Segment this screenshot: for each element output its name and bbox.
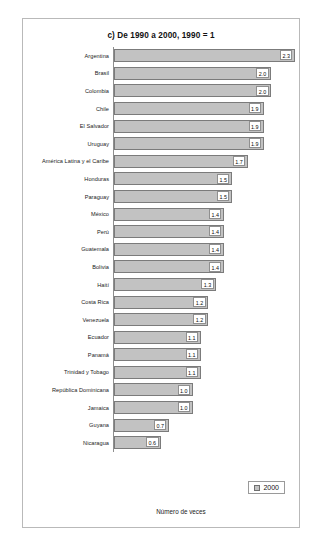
bar-value-label: 1.0 bbox=[178, 385, 190, 395]
bar-track: 1.2 bbox=[113, 293, 299, 311]
bar-track: 0.6 bbox=[113, 434, 299, 452]
bar bbox=[114, 243, 224, 256]
category-label: Bolivia bbox=[23, 264, 113, 270]
bar-row: Haití1.3 bbox=[23, 276, 299, 294]
category-label: Trinidad y Tobago bbox=[23, 369, 113, 375]
bar-row: Perú1.4 bbox=[23, 223, 299, 241]
bar-value-label: 1.9 bbox=[249, 103, 261, 113]
category-label: Panamá bbox=[23, 352, 113, 358]
bar-value-label: 1.1 bbox=[186, 367, 198, 377]
chart-title: c) De 1990 a 2000, 1990 = 1 bbox=[23, 31, 299, 40]
category-label: Colombia bbox=[23, 88, 113, 94]
bar-value-label: 1.7 bbox=[233, 156, 245, 166]
category-label: Ecuador bbox=[23, 334, 113, 340]
bar-value-label: 1.1 bbox=[186, 332, 198, 342]
bar-row: El Salvador1.9 bbox=[23, 117, 299, 135]
bar-value-label: 2.3 bbox=[280, 50, 292, 60]
x-axis-label: Número de veces bbox=[23, 508, 299, 515]
bar bbox=[114, 190, 232, 203]
bar-track: 2.3 bbox=[113, 47, 299, 65]
bar-track: 1.1 bbox=[113, 364, 299, 382]
bar-row: América Latina y el Caribe1.7 bbox=[23, 153, 299, 171]
bar-value-label: 0.7 bbox=[154, 420, 166, 430]
bar bbox=[114, 260, 224, 273]
bar-row: Brasil2.0 bbox=[23, 65, 299, 83]
bar-track: 1.4 bbox=[113, 223, 299, 241]
bar-value-label: 1.2 bbox=[193, 314, 205, 324]
category-label: Costa Rica bbox=[23, 299, 113, 305]
bar-row: Ecuador1.1 bbox=[23, 329, 299, 347]
bar-row: Costa Rica1.2 bbox=[23, 293, 299, 311]
bar-track: 1.2 bbox=[113, 311, 299, 329]
bar-track: 1.0 bbox=[113, 399, 299, 417]
bar-row: Chile1.9 bbox=[23, 100, 299, 118]
bar-row: Uruguay1.9 bbox=[23, 135, 299, 153]
bar-row: Bolivia1.4 bbox=[23, 258, 299, 276]
legend-swatch-2000 bbox=[254, 485, 260, 491]
bar-track: 0.7 bbox=[113, 416, 299, 434]
bar-value-label: 2.0 bbox=[256, 86, 268, 96]
category-label: Argentina bbox=[23, 53, 113, 59]
category-label: Perú bbox=[23, 229, 113, 235]
bar-row: Colombia2.0 bbox=[23, 82, 299, 100]
bar-value-label: 0.6 bbox=[146, 437, 158, 447]
category-label: América Latina y el Caribe bbox=[23, 158, 113, 164]
bar-value-label: 1.4 bbox=[209, 244, 221, 254]
bar-row: Guatemala1.4 bbox=[23, 241, 299, 259]
bar-value-label: 1.4 bbox=[209, 262, 221, 272]
bar-track: 1.0 bbox=[113, 381, 299, 399]
bar-row: Trinidad y Tobago1.1 bbox=[23, 364, 299, 382]
category-label: Uruguay bbox=[23, 141, 113, 147]
bar-track: 1.4 bbox=[113, 241, 299, 259]
bar bbox=[114, 208, 224, 221]
bar-row: Venezuela1.2 bbox=[23, 311, 299, 329]
category-label: México bbox=[23, 211, 113, 217]
bar-track: 1.7 bbox=[113, 153, 299, 171]
bar-row: Guyana0.7 bbox=[23, 416, 299, 434]
bar-track: 1.5 bbox=[113, 170, 299, 188]
chart-legend: 2000 bbox=[248, 481, 285, 494]
category-label: Guatemala bbox=[23, 246, 113, 252]
bar bbox=[114, 225, 224, 238]
bar-track: 1.3 bbox=[113, 276, 299, 294]
bar-value-label: 1.4 bbox=[209, 209, 221, 219]
bar-track: 1.1 bbox=[113, 329, 299, 347]
bar-value-label: 1.5 bbox=[217, 174, 229, 184]
bar bbox=[114, 155, 248, 168]
bar-row: Panamá1.1 bbox=[23, 346, 299, 364]
category-label: Brasil bbox=[23, 70, 113, 76]
plot-area: Argentina2.3Brasil2.0Colombia2.0Chile1.9… bbox=[23, 47, 299, 477]
category-label: República Dominicana bbox=[23, 387, 113, 393]
bar-value-label: 1.3 bbox=[201, 279, 213, 289]
bar-value-label: 1.9 bbox=[249, 138, 261, 148]
bar-track: 1.4 bbox=[113, 205, 299, 223]
category-label: Nicaragua bbox=[23, 440, 113, 446]
bar-track: 2.0 bbox=[113, 82, 299, 100]
category-label: El Salvador bbox=[23, 123, 113, 129]
bar-value-label: 1.1 bbox=[186, 349, 198, 359]
bar bbox=[114, 172, 232, 185]
bar bbox=[114, 137, 264, 150]
category-label: Haití bbox=[23, 282, 113, 288]
bar bbox=[114, 120, 264, 133]
bar bbox=[114, 49, 295, 62]
category-label: Venezuela bbox=[23, 317, 113, 323]
bar-row: Jamaica1.0 bbox=[23, 399, 299, 417]
bar bbox=[114, 102, 264, 115]
bar-track: 1.9 bbox=[113, 100, 299, 118]
bar-track: 1.9 bbox=[113, 135, 299, 153]
bar-row: Paraguay1.5 bbox=[23, 188, 299, 206]
bar-value-label: 2.0 bbox=[256, 68, 268, 78]
bar-row: República Dominicana1.0 bbox=[23, 381, 299, 399]
bar-track: 1.1 bbox=[113, 346, 299, 364]
bar-track: 2.0 bbox=[113, 65, 299, 83]
bar-track: 1.5 bbox=[113, 188, 299, 206]
bar-value-label: 1.0 bbox=[178, 402, 190, 412]
category-label: Guyana bbox=[23, 422, 113, 428]
bar-row: Argentina2.3 bbox=[23, 47, 299, 65]
bar-row: México1.4 bbox=[23, 205, 299, 223]
category-label: Paraguay bbox=[23, 194, 113, 200]
bar-value-label: 1.4 bbox=[209, 226, 221, 236]
category-label: Honduras bbox=[23, 176, 113, 182]
category-label: Chile bbox=[23, 106, 113, 112]
